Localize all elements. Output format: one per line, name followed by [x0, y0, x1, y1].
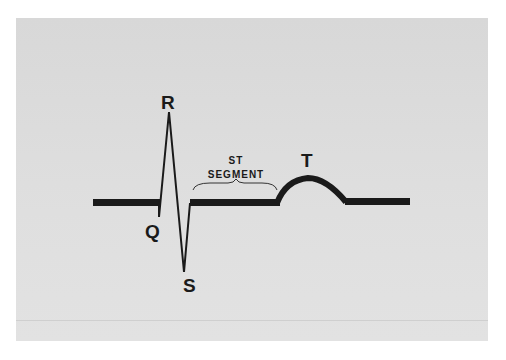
ecg-waveform [0, 0, 506, 360]
label-r: R [161, 93, 175, 112]
t-wave [277, 178, 346, 203]
st-segment-brace [193, 179, 277, 190]
label-t: T [301, 151, 313, 170]
qrs-complex [159, 112, 190, 272]
baseline-left [93, 199, 160, 206]
baseline-right [345, 198, 410, 205]
label-q: Q [145, 222, 160, 241]
st-segment-line [190, 199, 280, 206]
label-segment: SEGMENT [201, 170, 271, 180]
label-s: S [183, 276, 196, 295]
label-st: ST [206, 156, 266, 166]
